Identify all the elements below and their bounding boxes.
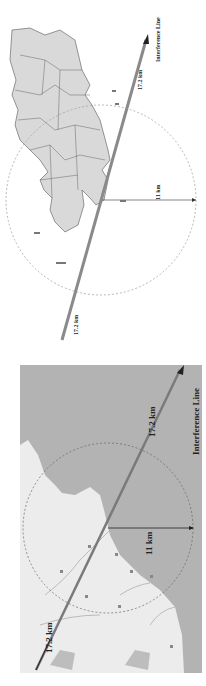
topographic-map-svg: 17.2 km 17.2 km 11 km Interference Line <box>0 345 206 686</box>
island-landmass <box>10 28 110 232</box>
distance-label-upper: 17.2 km <box>147 406 157 437</box>
map-panel-schematic: 17.2 km 17.2 km 11 km Interference Line <box>0 0 206 345</box>
radius-label: 11 km <box>155 184 161 200</box>
distance-label-lower: 17.2 km <box>44 622 54 653</box>
map-panel-topographic: 17.2 km 17.2 km 11 km Interference Line <box>0 345 206 686</box>
radius-label: 11 km <box>144 531 154 555</box>
interference-line-label: Interference Line <box>191 388 201 455</box>
interference-line-label: Interference Line <box>155 17 161 62</box>
schematic-map-svg: 17.2 km 17.2 km 11 km Interference Line <box>0 0 206 345</box>
distance-label-lower: 17.2 km <box>73 315 79 335</box>
distance-label-upper: 17.2 km <box>137 70 143 90</box>
